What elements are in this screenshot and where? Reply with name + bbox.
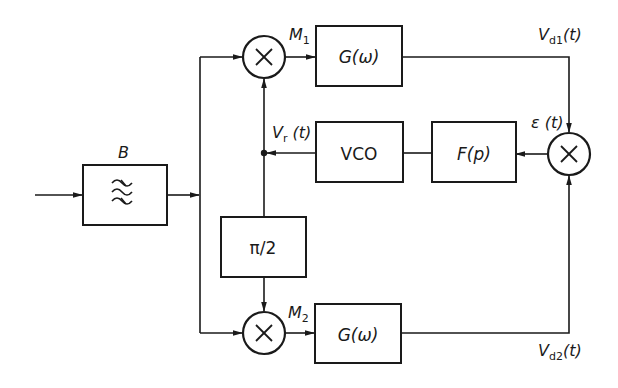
multiplier-m2 xyxy=(243,312,285,354)
error-signal-label: ε (t) xyxy=(531,113,564,132)
loop-filter-label: F(p) xyxy=(457,144,491,164)
vd2-signal-line xyxy=(401,176,569,333)
m1-label: M1 xyxy=(289,25,310,47)
m2-label: M2 xyxy=(288,303,309,325)
vco-label: VCO xyxy=(341,144,378,164)
phase-shift-label: π/2 xyxy=(250,238,277,258)
lowpass-top-label: G(ω) xyxy=(339,47,380,67)
vd2-label: Vd2(t) xyxy=(538,341,582,363)
lowpass-bottom-label: G(ω) xyxy=(338,325,379,345)
multiplier-m1 xyxy=(243,36,285,78)
bandpass-label: B xyxy=(118,143,129,162)
vr-label: Vr (t) xyxy=(272,123,311,145)
bandpass-filter-block xyxy=(83,165,167,225)
block-diagram: B M1 G(ω) Vd1(t) ε (t) F(p) VCO Vr (t) xyxy=(0,0,618,388)
multiplier-error xyxy=(548,133,590,175)
vd1-label: Vd1(t) xyxy=(538,25,582,47)
